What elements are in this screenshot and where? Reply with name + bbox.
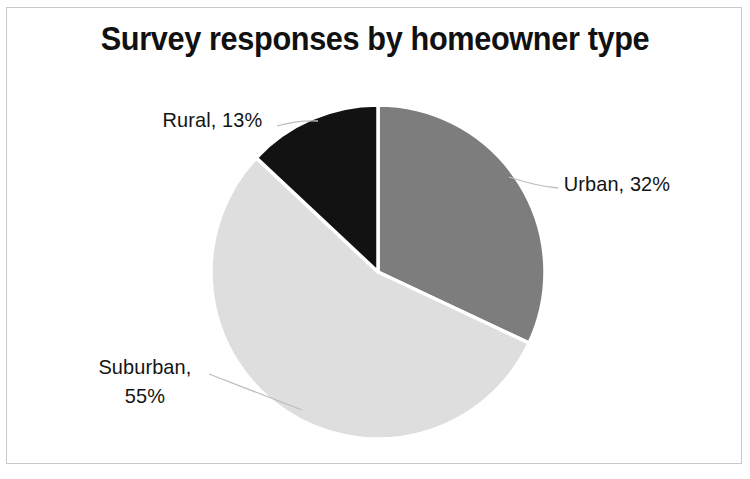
pie-label-urban: Urban, 32% — [564, 172, 670, 196]
pie-label-suburban-line2: 55% — [98, 382, 191, 411]
pie-chart-figure: Survey responses by homeowner type Rural… — [0, 0, 750, 479]
pie-label-suburban: Suburban, 55% — [98, 353, 191, 411]
pie-label-rural: Rural, 13% — [163, 108, 263, 132]
pie-label-suburban-line1: Suburban, — [98, 355, 191, 378]
